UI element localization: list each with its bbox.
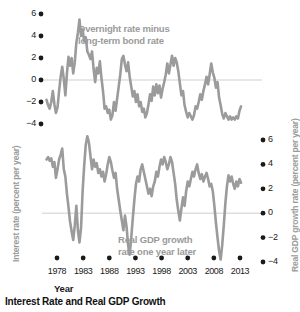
x-tick-label-1998: 1998 bbox=[148, 266, 176, 276]
y-right-tick-dot--4 bbox=[261, 260, 266, 265]
x-tick-dot-2013 bbox=[238, 256, 243, 261]
y-right-tick-label-4: 4 bbox=[268, 158, 286, 168]
y-left-tick-label-0: 0 bbox=[16, 74, 36, 84]
y-left-tick-label--2: −2 bbox=[16, 96, 36, 106]
y-right-tick-dot--2 bbox=[261, 235, 266, 240]
y-left-tick-dot-6 bbox=[39, 12, 44, 17]
y-left-tick-label-4: 4 bbox=[16, 30, 36, 40]
annotation-overnight-rate: Overnight rate minus long-term bond rate bbox=[78, 23, 170, 46]
figure-caption: Interest Rate and Real GDP Growth bbox=[5, 296, 165, 307]
x-tick-label-1983: 1983 bbox=[69, 266, 97, 276]
y-right-tick-dot-0 bbox=[261, 211, 266, 216]
y-left-tick-label--4: −4 bbox=[16, 118, 36, 128]
y-right-tick-dot-2 bbox=[261, 186, 266, 191]
x-tick-dot-1983 bbox=[81, 256, 86, 261]
y-right-tick-label-6: 6 bbox=[268, 134, 286, 144]
y-left-tick-label-6: 6 bbox=[16, 8, 36, 18]
y-axis-right-title: Real GDP growth rate (percent per year) bbox=[290, 118, 300, 272]
y-left-tick-dot-2 bbox=[39, 56, 44, 61]
x-tick-dot-2008 bbox=[211, 256, 216, 261]
y-left-tick-dot--4 bbox=[39, 122, 44, 127]
y-right-tick-label-0: 0 bbox=[268, 207, 286, 217]
annotation-gdp-growth-line2: rate one year later bbox=[118, 246, 196, 258]
annotation-overnight-rate-line2: long-term bond rate bbox=[78, 35, 170, 47]
y-right-tick-dot-6 bbox=[261, 138, 266, 143]
y-left-tick-dot--2 bbox=[39, 100, 44, 105]
y-right-tick-label-2: 2 bbox=[268, 183, 286, 193]
x-tick-label-1978: 1978 bbox=[43, 266, 71, 276]
x-tick-label-2013: 2013 bbox=[226, 266, 254, 276]
x-tick-dot-1988 bbox=[107, 256, 112, 261]
x-tick-label-1988: 1988 bbox=[95, 266, 123, 276]
series-layer bbox=[47, 20, 242, 260]
annotation-overnight-rate-line1: Overnight rate minus bbox=[78, 23, 170, 35]
annotation-gdp-growth: Real GDP growth rate one year later bbox=[118, 234, 196, 257]
y-axis-left-title: Interest rate (percent per year) bbox=[11, 146, 21, 262]
y-left-tick-dot-0 bbox=[39, 78, 44, 83]
x-tick-label-2003: 2003 bbox=[174, 266, 202, 276]
x-tick-label-2008: 2008 bbox=[200, 266, 228, 276]
chart-figure: Interest rate (percent per year) Real GD… bbox=[0, 0, 300, 312]
tick-marks bbox=[39, 12, 266, 265]
x-tick-dot-1978 bbox=[55, 256, 60, 261]
y-right-tick-label--4: −4 bbox=[268, 256, 286, 266]
x-tick-label-1993: 1993 bbox=[121, 266, 149, 276]
y-left-tick-dot-4 bbox=[39, 34, 44, 39]
annotation-gdp-growth-line1: Real GDP growth bbox=[118, 234, 196, 246]
y-left-tick-label-2: 2 bbox=[16, 52, 36, 62]
y-right-tick-label--2: −2 bbox=[268, 232, 286, 242]
y-right-tick-dot-4 bbox=[261, 162, 266, 167]
x-axis-title: Year bbox=[54, 283, 73, 294]
